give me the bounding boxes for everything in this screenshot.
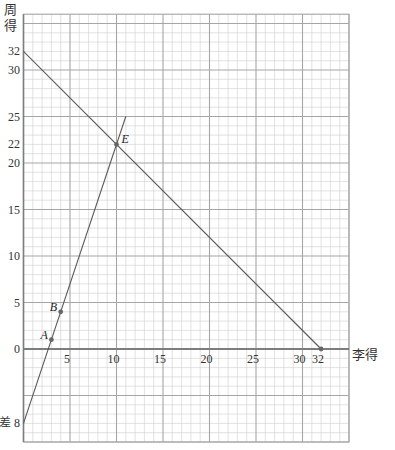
x-tick-label: 5	[64, 352, 70, 366]
x-tick-label: 25	[247, 352, 259, 366]
point-E	[114, 142, 119, 147]
line-chart: ABE 0510152022253032差 85101520253032 周 得…	[0, 0, 395, 450]
y-tick-label: 20	[8, 156, 20, 170]
y-tick-label: 30	[8, 63, 20, 77]
y-tick-label: 22	[8, 137, 20, 151]
y-tick-label: 32	[8, 44, 20, 58]
x-tick-label: 10	[108, 352, 120, 366]
x-tick-label: 32	[312, 352, 324, 366]
x-axis-title: 李得	[352, 347, 378, 362]
x-tick-label: 30	[294, 352, 306, 366]
y-tick-label: 5	[14, 296, 20, 310]
x-tick-label: 15	[154, 352, 166, 366]
point-label-B: B	[50, 300, 58, 314]
point-label-E: E	[121, 132, 130, 146]
y-tick-label: 0	[14, 342, 20, 356]
minor-grid	[24, 14, 350, 442]
y-tick-label: 15	[8, 203, 20, 217]
y-axis-title: 周	[4, 2, 17, 17]
point-marker	[319, 347, 324, 352]
y-axis-title-2: 得	[4, 18, 17, 33]
point-A	[49, 337, 54, 342]
y-tick-label: 10	[8, 249, 20, 263]
y-tick-label: 25	[8, 110, 20, 124]
point-label-A: A	[39, 328, 48, 342]
y-tick-label-negative: 差 8	[0, 416, 20, 430]
point-B	[58, 309, 63, 314]
x-tick-label: 20	[201, 352, 213, 366]
